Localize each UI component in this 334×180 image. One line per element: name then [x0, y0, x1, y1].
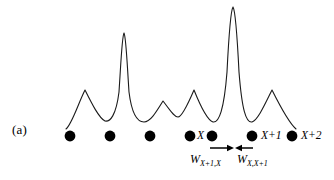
lattice-site-dot [185, 131, 196, 142]
site-label-x-plus-1: X+1 [261, 130, 282, 142]
rate-symbol-w-backward: W [237, 152, 247, 166]
lattice-site-dot [65, 131, 76, 142]
potential-energy-diagram [0, 0, 334, 180]
panel-label: (a) [12, 122, 27, 138]
site-label-x: X [197, 130, 204, 142]
rate-label-forward: WX+1,X [190, 153, 221, 168]
rate-subscript-backward: X,X+1 [247, 159, 268, 168]
rate-symbol-w-forward: W [190, 152, 200, 166]
lattice-site-dot-x-plus-1 [247, 131, 258, 142]
lattice-site-dot [105, 131, 116, 142]
forward-rate-arrow [210, 145, 234, 152]
lattice-site-dot [145, 131, 156, 142]
rate-subscript-forward: X+1,X [200, 159, 221, 168]
lattice-site-dot-x [207, 131, 218, 142]
figure-panel-a: (a) X X+1 X+2 WX+1,X WX,X+1 [0, 0, 334, 180]
rate-label-backward: WX,X+1 [237, 153, 268, 168]
site-label-x-plus-2: X+2 [301, 130, 322, 142]
backward-rate-arrow [235, 145, 253, 152]
lattice-site-dot-x-plus-2 [287, 131, 298, 142]
potential-energy-curve [66, 7, 296, 129]
